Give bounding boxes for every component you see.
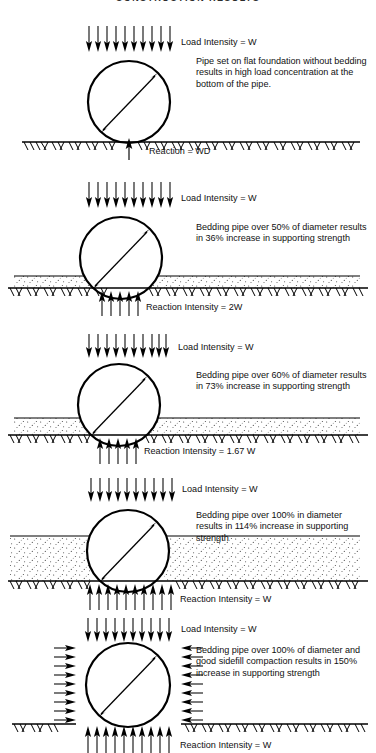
load-intensity-label: Load Intensity = W [181, 37, 257, 48]
panel-bedding-60: Load Intensity = W Bedding pipe over 60%… [0, 330, 376, 464]
ground-line [8, 288, 368, 296]
panel-description: Bedding pipe over 100% in diameter resul… [196, 510, 368, 544]
ground-line [12, 724, 368, 732]
bedding-layer [14, 418, 360, 435]
load-intensity-label: Load Intensity = W [178, 342, 254, 353]
reaction-label: Reaction Intensity = 2W [146, 302, 242, 313]
ground-line [8, 581, 368, 589]
panel-bedding-50: Load Intensity = W Bedding pipe over 50%… [0, 176, 376, 316]
pipe-circle [87, 510, 169, 592]
load-intensity-label: Load Intensity = W [182, 484, 258, 495]
pipe-circle [80, 217, 162, 299]
panel-description: Bedding pipe over 60% of diameter result… [196, 370, 368, 393]
page-title: CONSTRUCTION RESULTS [0, 0, 376, 3]
ground-line [8, 435, 368, 443]
panel-description: Pipe set on flat foundation without bedd… [196, 56, 368, 90]
panel-flat-foundation: Load Intensity = W Pipe set on flat foun… [0, 18, 376, 160]
reaction-label: Reaction Intensity = W [180, 740, 271, 751]
reaction-label: Reaction Intensity = W [180, 594, 271, 605]
load-arrow-group [86, 182, 173, 208]
reaction-label: Reaction = WD [149, 146, 210, 157]
load-arrow-group [86, 334, 169, 358]
panel-bedding-100-sidefill: Load Intensity = W Bedding pipe over 100… [0, 612, 376, 753]
pipe-circle [78, 364, 160, 446]
panel-description: Bedding pipe over 100% of diameter and g… [196, 645, 370, 679]
load-arrow-group [88, 478, 175, 502]
load-intensity-label: Load Intensity = W [181, 624, 257, 635]
pipe-circle [86, 643, 170, 727]
bedding-layer [14, 276, 360, 288]
pipe-circle [88, 61, 170, 143]
load-arrow-group [86, 26, 173, 52]
load-intensity-label: Load Intensity = W [181, 193, 257, 204]
panel-description: Bedding pipe over 50% of diameter result… [196, 222, 368, 245]
reaction-arrow-group [85, 726, 172, 753]
load-arrow-group [85, 618, 172, 642]
panel-bedding-100: Load Intensity = W Bedding pipe over 100… [0, 474, 376, 610]
reaction-label: Reaction Intensity = 1.67 W [144, 446, 255, 457]
side-arrow-group-left [54, 645, 76, 723]
